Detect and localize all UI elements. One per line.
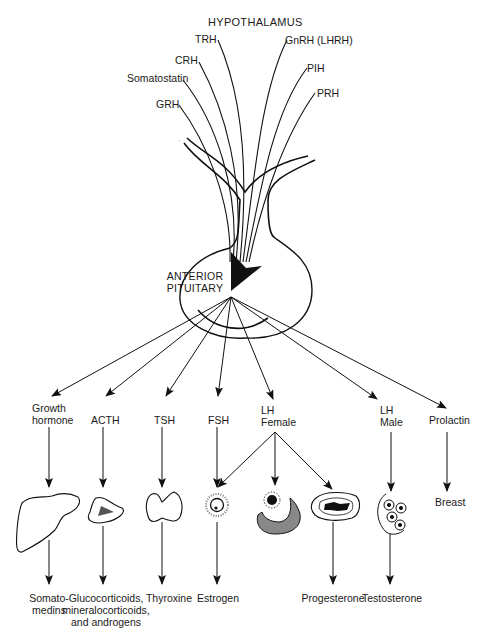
organ-to-product-arrows [49, 522, 390, 584]
anterior-pituitary-label: ANTERIOR PITUITARY [160, 270, 230, 294]
hormone-label-somatostatin: Somatostatin [127, 72, 188, 84]
corpus-luteum-icon [311, 493, 359, 521]
hormone-fsh: FSH [208, 414, 229, 426]
ovulated-follicle-icon [257, 492, 300, 534]
hypothalamic-fibers [179, 40, 315, 262]
product-progesterone: Progesterone [301, 592, 364, 604]
hormone-label-crh: CRH [175, 54, 198, 66]
testis-cells-icon [378, 494, 406, 534]
svg-text:·: · [178, 137, 180, 143]
hormone-lh-female: LH Female [261, 404, 296, 428]
pituitary-label-line2: PITUITARY [160, 282, 230, 294]
hormone-label-prh: PRH [317, 87, 339, 99]
hormone-label-pih: PIH [307, 62, 325, 74]
hormone-growth-hormone: Growth hormone [32, 402, 73, 426]
hormone-label-grh: GRH [156, 98, 179, 110]
hypothalamus-title: HYPOTHALAMUS [208, 16, 303, 28]
hormone-pathway-diagram: · [0, 0, 487, 636]
hormone-label-gnrh: GnRH (LHRH) [285, 34, 353, 46]
hormone-acth: ACTH [91, 414, 120, 426]
ovarian-follicle-icon [206, 494, 228, 516]
target-breast: Breast [435, 496, 465, 508]
hormone-tsh: TSH [154, 414, 175, 426]
liver-icon [17, 494, 80, 552]
product-thyroxine: Thyroxine [146, 592, 192, 604]
product-estrogen: Estrogen [197, 592, 239, 604]
product-testosterone: Testosterone [362, 592, 422, 604]
pituitary-stalk-outline [184, 138, 315, 248]
hormone-to-organ-arrows [49, 427, 447, 491]
pituitary-label-line1: ANTERIOR [160, 270, 230, 282]
hormone-prolactin: Prolactin [429, 414, 470, 426]
thyroid-gland-icon [146, 492, 182, 522]
pituitary-output-arrows [52, 297, 446, 408]
product-corticoids: Glucocorticoids, mineralocorticoids, and… [62, 592, 150, 628]
hormone-lh-male: LH Male [380, 404, 403, 428]
adrenal-gland-icon [88, 497, 123, 522]
hormone-label-trh: TRH [195, 33, 217, 45]
